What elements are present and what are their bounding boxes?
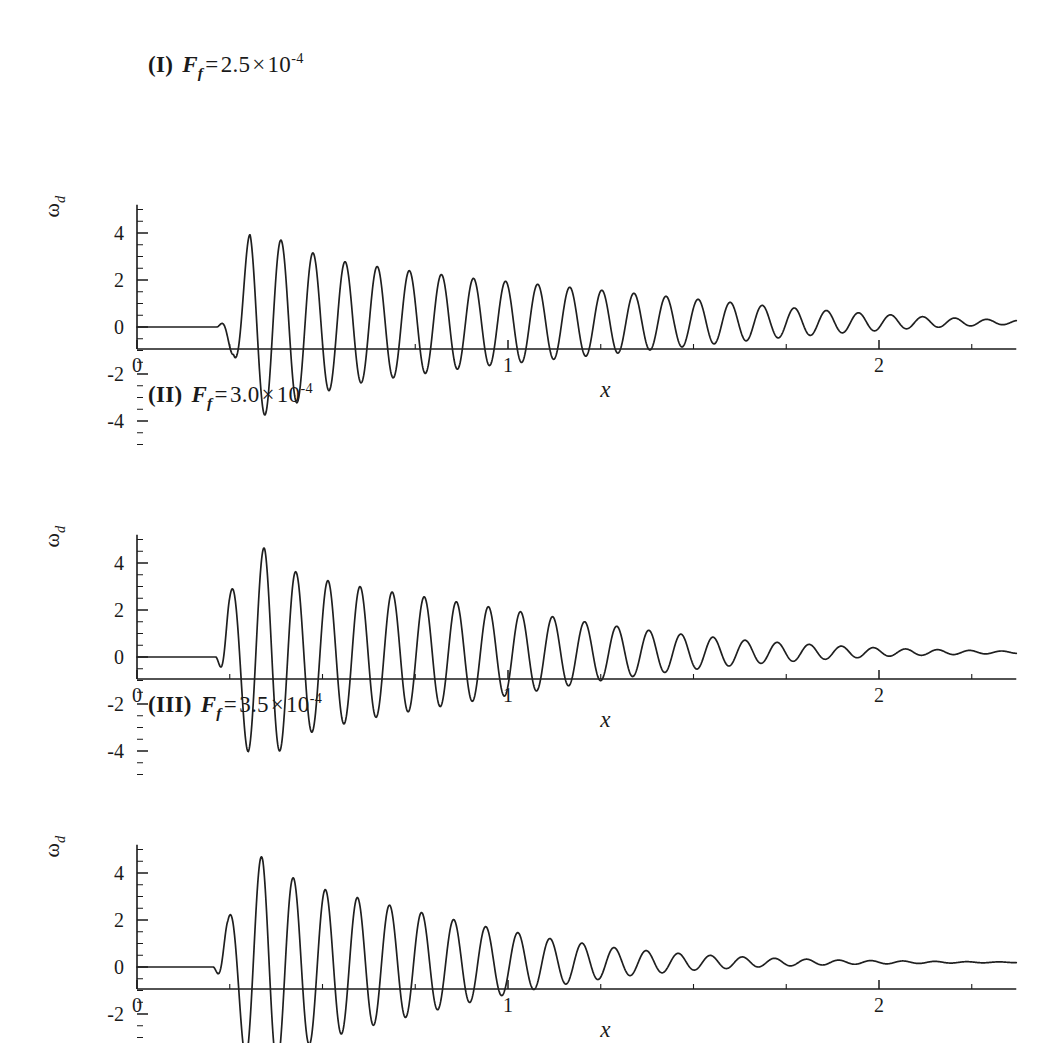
y-tick-label: 2: [114, 599, 124, 621]
x-tick-label: 1: [503, 994, 513, 1016]
x-tick-label: 0: [132, 994, 142, 1016]
waveform-trace: [137, 857, 1016, 1043]
x-tick-label: 2: [874, 994, 884, 1016]
y-tick-label: 2: [114, 269, 124, 291]
plot-svg-2: 012420-2-4: [0, 352, 1057, 682]
plot-svg-1: 012420-2-4: [0, 22, 1057, 352]
y-tick-label: 4: [114, 222, 124, 244]
plot-panel-2: (II)Ff=3.0×10-4 ωd 012420-2-4 x: [0, 352, 1057, 682]
plot-svg-3: 012420-2-4: [0, 662, 1057, 992]
plot-panel-3: (III)Ff=3.5×10-4 ωd 012420-2-4 x: [0, 662, 1057, 992]
x-axis-label-3: x: [600, 1017, 610, 1043]
y-tick-label: 0: [114, 316, 124, 338]
y-tick-label: 0: [114, 956, 124, 978]
y-tick-label: -2: [107, 1003, 124, 1025]
y-tick-label: 2: [114, 909, 124, 931]
y-tick-label: 4: [114, 552, 124, 574]
plot-panel-1: (I)Ff=2.5×10-4 ωd 012420-2-4 x: [0, 22, 1057, 352]
y-tick-label: 4: [114, 862, 124, 884]
